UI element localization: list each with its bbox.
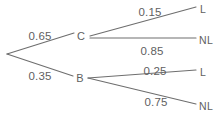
probability-label-root-b: 0.35 <box>28 70 51 82</box>
node-label-b: B <box>76 72 84 84</box>
outcome-label-c-l: L <box>200 3 206 15</box>
probability-label-b-nl: 0.75 <box>144 96 167 108</box>
tree-canvas: C B L NL L NL 0.65 0.35 0.15 0.85 0.25 0… <box>0 0 219 115</box>
probability-label-b-l: 0.25 <box>143 65 166 77</box>
edge-b-to-l <box>88 70 196 78</box>
probability-label-c-l: 0.15 <box>138 6 161 18</box>
outcome-label-b-l: L <box>200 66 206 78</box>
outcome-label-b-nl: NL <box>199 100 213 112</box>
outcome-label-c-nl: NL <box>199 34 213 46</box>
probability-tree-diagram: C B L NL L NL 0.65 0.35 0.15 0.85 0.25 0… <box>0 0 219 115</box>
probability-label-c-nl: 0.85 <box>140 45 163 57</box>
probability-label-root-c: 0.65 <box>28 30 51 42</box>
edge-b-to-nl <box>88 78 196 104</box>
node-label-c: C <box>77 30 85 42</box>
